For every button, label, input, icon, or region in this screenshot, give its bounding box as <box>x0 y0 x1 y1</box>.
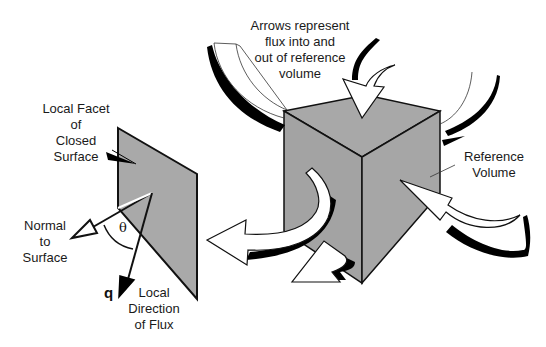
flux-arrow-top-right <box>440 72 500 146</box>
label-normal-line3: Surface <box>23 250 68 265</box>
flux-diagram: Local Facet of Closed Surface Normal to … <box>0 0 546 347</box>
label-arrows-line3: out of reference <box>254 50 345 65</box>
flux-q-label: q <box>104 284 113 301</box>
label-facet-line3: Closed <box>56 133 96 148</box>
label-ref-line1: Reference <box>464 149 524 164</box>
label-flux-dir-line2: Direction <box>128 301 179 316</box>
reference-volume <box>284 95 455 283</box>
label-arrows-line2: flux into and <box>265 34 335 49</box>
label-facet-line2: of <box>71 117 82 132</box>
label-flux-dir-line1: Local <box>138 285 169 300</box>
label-ref-line2: Volume <box>472 165 515 180</box>
label-flux-direction: Local Direction of Flux <box>128 285 179 332</box>
label-normal: Normal to Surface <box>23 218 68 265</box>
angle-theta-label: θ <box>119 220 127 235</box>
flux-arrow-right-lower <box>400 180 530 258</box>
label-arrows-line1: Arrows represent <box>251 18 350 33</box>
flux-arrowhead <box>119 276 134 297</box>
label-normal-line1: Normal <box>24 218 66 233</box>
label-facet-line1: Local Facet <box>42 101 110 116</box>
label-facet-line4: Surface <box>54 149 99 164</box>
label-facet: Local Facet of Closed Surface <box>42 101 110 164</box>
label-normal-line2: to <box>40 234 51 249</box>
label-flux-dir-line3: of Flux <box>134 317 174 332</box>
label-arrows-line4: volume <box>279 66 321 81</box>
normal-arrowhead <box>72 220 97 238</box>
label-reference-volume: Reference Volume <box>464 149 524 180</box>
label-arrows-note: Arrows represent flux into and out of re… <box>251 18 350 81</box>
